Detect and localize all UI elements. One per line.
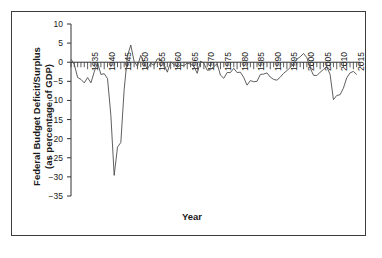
plot-canvas xyxy=(12,12,367,237)
axes-group xyxy=(67,24,360,196)
figure-border: Federal Budget Deficit/Surplus (as perce… xyxy=(11,11,366,236)
